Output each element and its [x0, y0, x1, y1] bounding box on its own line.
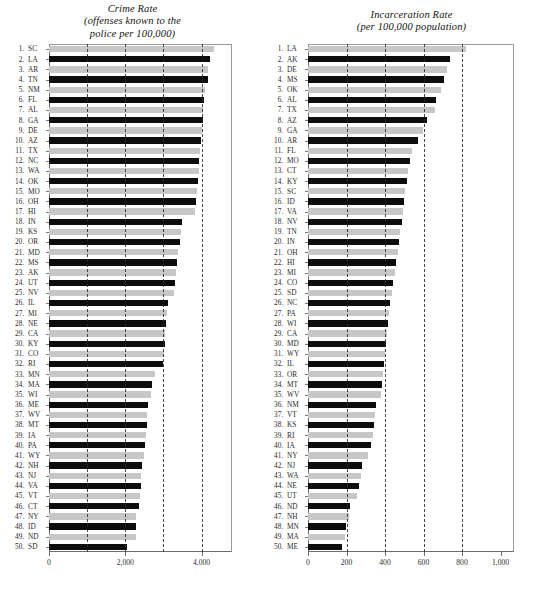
bar-SD	[308, 290, 392, 296]
x-tick-mark	[385, 552, 386, 556]
x-tick-label: 0	[306, 558, 310, 567]
rank-number: 32.	[271, 360, 284, 367]
rank-number: 7.	[271, 106, 284, 113]
x-tick-mark	[424, 552, 425, 556]
state-abbr: IN	[287, 238, 302, 245]
rank-number: 3.	[271, 66, 284, 73]
rank-number: 30.	[271, 340, 284, 347]
bar-CT	[308, 168, 408, 174]
bar-row	[49, 107, 232, 113]
rank-number: 42.	[12, 462, 25, 469]
bar-row	[308, 239, 514, 245]
bar-row	[49, 452, 232, 458]
bar-row	[49, 219, 232, 225]
bar-row	[308, 422, 514, 428]
y-tick-label-OH: 21.OH	[271, 247, 303, 257]
bar-LA	[308, 46, 466, 52]
rank-number: 49.	[271, 533, 284, 540]
y-tick-label-UT: 24.UT	[12, 278, 44, 288]
y-tick-label-MD: 21.MD	[12, 247, 44, 257]
bar-row	[49, 523, 232, 529]
bar-row	[49, 483, 232, 489]
y-tick-label-TX: 11.TX	[12, 146, 44, 156]
state-abbr: MO	[287, 157, 302, 164]
bar-MN	[308, 523, 346, 529]
state-abbr: WI	[28, 391, 43, 398]
y-tick-label-CA: 29.CA	[271, 328, 303, 338]
x-tick-mark	[501, 552, 502, 556]
rank-number: 15.	[271, 188, 284, 195]
bar-AR	[308, 137, 418, 143]
state-abbr: WA	[287, 472, 302, 479]
rank-number: 8.	[12, 117, 25, 124]
bar-row	[49, 46, 232, 52]
x-tick-mark	[347, 552, 348, 556]
state-abbr: WV	[287, 391, 302, 398]
y-tick-label-MO: 15.MO	[12, 186, 44, 196]
y-tick-label-MT: 34.MT	[271, 379, 303, 389]
bar-row	[308, 493, 514, 499]
bar-ID	[49, 523, 136, 529]
bar-NH	[49, 462, 142, 468]
bar-row	[49, 229, 232, 235]
bar-row	[49, 412, 232, 418]
rank-number: 6.	[271, 96, 284, 103]
state-abbr: ND	[287, 503, 302, 510]
state-abbr: VT	[287, 411, 302, 418]
bar-row	[49, 462, 232, 468]
state-abbr: MN	[28, 371, 43, 378]
bar-row	[308, 391, 514, 397]
gridline	[87, 44, 88, 552]
rank-number: 28.	[12, 320, 25, 327]
state-abbr: DE	[287, 66, 302, 73]
state-abbr: FL	[287, 147, 302, 154]
rank-number: 9.	[271, 127, 284, 134]
bar-row	[49, 168, 232, 174]
state-abbr: NC	[28, 157, 43, 164]
bar-WY	[49, 452, 144, 458]
y-tick-label-CO: 24.CO	[271, 278, 303, 288]
bar-ND	[308, 503, 350, 509]
bar-MA	[49, 381, 152, 387]
rank-number: 36.	[271, 401, 284, 408]
state-abbr: NM	[287, 401, 302, 408]
bar-row	[308, 300, 514, 306]
rank-number: 48.	[12, 523, 25, 530]
y-tick-label-IA: 40.IA	[271, 440, 303, 450]
bar-row	[49, 239, 232, 245]
state-abbr: NV	[287, 218, 302, 225]
bar-row	[49, 310, 232, 316]
y-tick-label-WV: 37.WV	[12, 410, 44, 420]
bar-row	[49, 117, 232, 123]
state-abbr: OK	[287, 86, 302, 93]
rank-number: 50.	[12, 543, 25, 550]
bar-row	[49, 442, 232, 448]
bar-row	[308, 483, 514, 489]
rank-number: 46.	[271, 503, 284, 510]
rank-number: 1.	[12, 45, 25, 52]
state-abbr: IN	[28, 218, 43, 225]
y-tick-label-TN: 4.TN	[12, 74, 44, 84]
rank-number: 41.	[12, 452, 25, 459]
y-tick-label-NY: 47.NY	[12, 511, 44, 521]
y-tick-label-VA: 44.VA	[12, 481, 44, 491]
bar-row	[49, 320, 232, 326]
bar-SC	[49, 46, 214, 52]
bar-PA	[308, 310, 389, 316]
rank-number: 33.	[271, 371, 284, 378]
bar-ME	[308, 544, 342, 550]
bar-FL	[49, 97, 204, 103]
bar-row	[49, 198, 232, 204]
bar-row	[49, 97, 232, 103]
y-tick-label-CA: 29.CA	[12, 328, 44, 338]
bar-row	[49, 87, 232, 93]
rank-number: 44.	[12, 482, 25, 489]
rank-number: 12.	[12, 157, 25, 164]
state-abbr: HI	[28, 208, 43, 215]
bar-AL	[308, 97, 436, 103]
chart-title-line1: Incarceration Rate	[265, 9, 558, 21]
bar-row	[308, 208, 514, 214]
state-abbr: SD	[287, 289, 302, 296]
y-tick-label-AL: 6.AL	[271, 95, 303, 105]
y-tick-label-AR: 10.AR	[271, 135, 303, 145]
